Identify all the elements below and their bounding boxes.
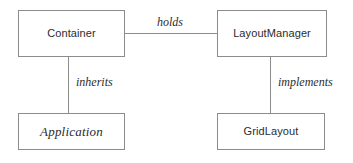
- class-box-application[interactable]: Application: [18, 113, 125, 150]
- class-name-layoutmanager: LayoutManager: [233, 28, 311, 39]
- edge-label-holds: holds: [157, 16, 183, 28]
- class-box-container[interactable]: Container: [18, 10, 125, 57]
- edge-label-inherits: inherits: [76, 76, 113, 88]
- uml-class-diagram: holds inherits implements Container Layo…: [0, 0, 353, 163]
- class-box-gridlayout[interactable]: GridLayout: [217, 113, 325, 150]
- class-name-gridlayout: GridLayout: [244, 126, 299, 137]
- edge-implements-line: [270, 57, 271, 113]
- class-name-container: Container: [47, 28, 96, 39]
- edge-inherits-line: [68, 57, 69, 113]
- edge-label-implements: implements: [278, 76, 333, 88]
- class-box-layoutmanager[interactable]: LayoutManager: [217, 10, 327, 57]
- class-name-application: Application: [40, 125, 103, 138]
- edge-holds-line: [125, 33, 217, 34]
